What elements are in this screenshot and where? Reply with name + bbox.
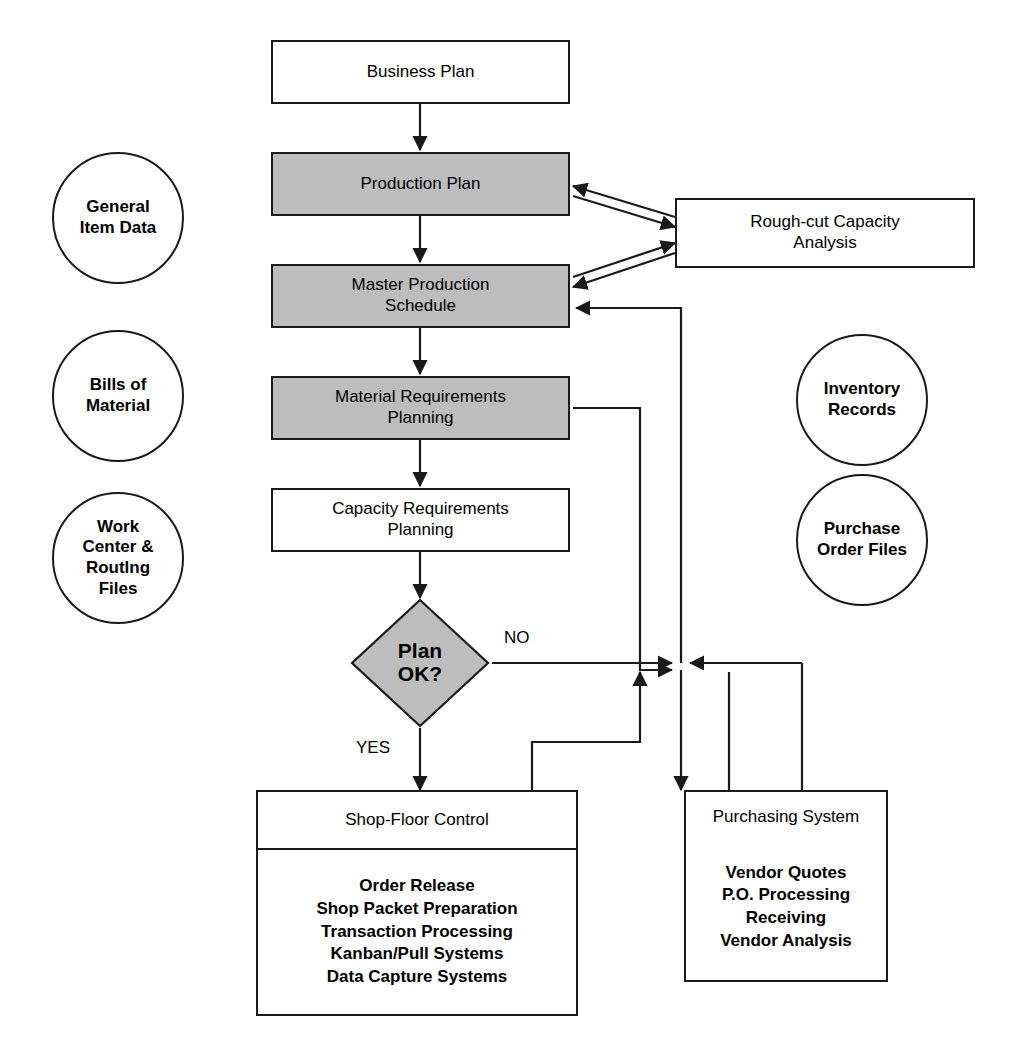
crp-line2: Planning xyxy=(387,520,453,541)
bills-of-material-line2: Material xyxy=(86,396,150,417)
purchasing-item-2: Receiving xyxy=(746,907,826,930)
purchasing-system-header: Purchasing System xyxy=(686,792,886,842)
edge-mrp-to-junction xyxy=(573,408,672,670)
purchase-order-files-line1: Purchase xyxy=(824,519,901,540)
shop-floor-item-1: Shop Packet Preparation xyxy=(316,898,517,921)
decision-label: Plan OK? xyxy=(350,598,490,728)
box-purchasing-system: Purchasing System Vendor Quotes P.O. Pro… xyxy=(684,790,888,982)
box-master-production-schedule: Master Production Schedule xyxy=(271,264,570,328)
edge-shopfloor-to-junction xyxy=(532,672,640,790)
shop-floor-item-0: Order Release xyxy=(359,875,474,898)
purchasing-item-3: Vendor Analysis xyxy=(720,930,852,953)
edge-roughcut-to-production-plan xyxy=(573,186,675,217)
work-center-routing-line3: Routlng xyxy=(86,558,150,579)
rough-cut-line1: Rough-cut Capacity xyxy=(750,212,899,233)
purchasing-item-0: Vendor Quotes xyxy=(726,862,847,885)
edge-label-no: NO xyxy=(504,628,530,648)
shop-floor-item-4: Data Capture Systems xyxy=(327,966,507,989)
edge-production-plan-to-roughcut xyxy=(573,196,675,227)
box-material-requirements-planning: Material Requirements Planning xyxy=(271,376,570,440)
decision-plan-ok: Plan OK? xyxy=(350,598,490,728)
rough-cut-line2: Analysis xyxy=(793,233,856,254)
edge-roughcut-to-mps xyxy=(573,253,675,287)
general-item-data-line2: Item Data xyxy=(80,218,157,239)
production-plan-label: Production Plan xyxy=(360,174,480,195)
work-center-routing-line1: Work xyxy=(97,517,139,538)
box-production-plan: Production Plan xyxy=(271,152,570,216)
general-item-data-line1: General xyxy=(86,197,149,218)
crp-line1: Capacity Requirements xyxy=(332,499,509,520)
purchasing-item-1: P.O. Processing xyxy=(722,884,850,907)
circle-general-item-data: General Item Data xyxy=(52,152,184,284)
circle-purchase-order-files: Purchase Order Files xyxy=(796,474,928,606)
mrp-line1: Material Requirements xyxy=(335,387,506,408)
flowchart-canvas: General Item Data Bills of Material Work… xyxy=(0,0,1013,1052)
inventory-records-line1: Inventory xyxy=(824,379,901,400)
mps-line2: Schedule xyxy=(385,296,456,317)
shop-floor-item-2: Transaction Processing xyxy=(321,921,513,944)
box-rough-cut-capacity-analysis: Rough-cut Capacity Analysis xyxy=(675,198,975,268)
circle-bills-of-material: Bills of Material xyxy=(52,330,184,462)
edge-feedback-to-mps xyxy=(576,308,681,663)
work-center-routing-line4: Files xyxy=(99,579,138,600)
inventory-records-line2: Records xyxy=(828,400,896,421)
shop-floor-item-3: Kanban/Pull Systems xyxy=(331,943,504,966)
work-center-routing-line2: Center & xyxy=(83,537,154,558)
edge-mps-to-roughcut xyxy=(573,243,675,277)
shop-floor-control-list: Order Release Shop Packet Preparation Tr… xyxy=(258,850,576,1014)
purchase-order-files-line2: Order Files xyxy=(817,540,907,561)
box-shop-floor-control: Shop-Floor Control Order Release Shop Pa… xyxy=(256,790,578,1016)
box-business-plan: Business Plan xyxy=(271,40,570,104)
circle-inventory-records: Inventory Records xyxy=(796,334,928,466)
decision-line2: OK? xyxy=(398,663,442,686)
mrp-line2: Planning xyxy=(387,408,453,429)
mps-line1: Master Production xyxy=(352,275,490,296)
purchasing-system-list: Vendor Quotes P.O. Processing Receiving … xyxy=(686,842,886,980)
decision-line1: Plan xyxy=(398,640,442,663)
business-plan-label: Business Plan xyxy=(367,62,475,83)
box-capacity-requirements-planning: Capacity Requirements Planning xyxy=(271,488,570,552)
shop-floor-control-header: Shop-Floor Control xyxy=(258,792,576,850)
edge-label-yes: YES xyxy=(356,738,390,758)
bills-of-material-line1: Bills of xyxy=(90,375,147,396)
circle-work-center-routing-files: Work Center & Routlng Files xyxy=(52,492,184,624)
